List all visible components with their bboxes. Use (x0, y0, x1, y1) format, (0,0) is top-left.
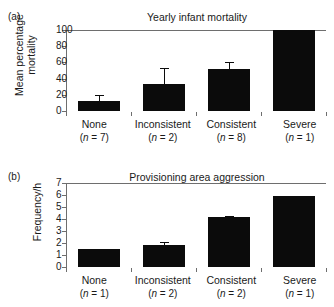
category-sample-size: (n = 7) (60, 131, 129, 144)
bar-severe (273, 30, 315, 111)
y-tick-label: 1 (56, 250, 58, 260)
x-tick-mark-end (326, 268, 327, 272)
x-tick-mark-end (326, 112, 327, 116)
x-tick-mark (66, 112, 67, 116)
panel-a-x-labels: None(n = 7)Inconsistent(n = 2)Consistent… (60, 118, 334, 144)
y-tick-label: 2 (56, 238, 58, 248)
y-tick-label: 60 (56, 57, 58, 67)
category-sample-size: (n = 1) (266, 287, 334, 300)
category-name: Inconsistent (129, 274, 198, 287)
x-label-inconsistent: Inconsistent(n = 2) (129, 118, 198, 144)
y-tick-mark (62, 195, 66, 196)
y-tick-label: 5 (56, 202, 58, 212)
y-tick-mark (62, 207, 66, 208)
x-label-severe: Severe(n = 1) (266, 274, 334, 300)
category-sample-size: (n = 2) (129, 131, 198, 144)
category-sample-size: (n = 8) (197, 131, 266, 144)
bar-consistent (208, 69, 250, 111)
y-tick-label: 0 (56, 106, 58, 116)
error-bar-inconsistent (164, 68, 165, 84)
bar-none (78, 249, 120, 267)
x-tick-mark (196, 268, 197, 272)
panel-a: (a) Yearly infant mortality Mean percent… (0, 0, 334, 158)
x-label-inconsistent: Inconsistent(n = 2) (129, 274, 198, 300)
panel-b-x-labels: None(n = 1)Inconsistent(n = 2)Consistent… (60, 274, 334, 300)
category-name: Consistent (197, 118, 266, 131)
category-sample-size: (n = 1) (60, 287, 129, 300)
x-label-severe: Severe(n = 1) (266, 118, 334, 144)
x-tick-mark (131, 268, 132, 272)
y-tick-label: 6 (56, 190, 58, 200)
panel-b-plot-area: 01234567 (66, 183, 326, 268)
y-tick-mark (62, 255, 66, 256)
bar-inconsistent (143, 245, 185, 267)
x-tick-mark (131, 112, 132, 116)
category-sample-size: (n = 2) (129, 287, 198, 300)
y-tick-label: 7 (56, 178, 58, 188)
panel-a-title: Yearly infant mortality (60, 12, 334, 23)
panel-b-x-axis-line (66, 183, 326, 184)
y-tick-label: 3 (56, 226, 58, 236)
y-tick-label: 0 (56, 262, 58, 272)
figure-two-panel-bar-chart: (a) Yearly infant mortality Mean percent… (0, 0, 334, 307)
panel-b-title: Provisioning area aggression (60, 172, 334, 183)
category-name: Severe (266, 118, 334, 131)
category-name: Severe (266, 274, 334, 287)
error-bar-cap-inconsistent (160, 242, 169, 243)
x-tick-mark (261, 268, 262, 272)
panel-a-y-axis-label: Mean percentage mortality (13, 7, 39, 103)
category-sample-size: (n = 1) (266, 131, 334, 144)
x-tick-mark (196, 112, 197, 116)
y-tick-label: 20 (56, 90, 58, 100)
error-bar-cap-none (95, 95, 104, 96)
y-tick-mark (62, 183, 66, 184)
error-bar-cap-consistent (225, 216, 234, 217)
y-tick-mark (62, 219, 66, 220)
y-tick-label: 100 (56, 25, 58, 35)
category-name: None (60, 118, 129, 131)
y-tick-label: 80 (56, 41, 58, 51)
bar-severe (273, 196, 315, 267)
error-bar-cap-inconsistent (160, 68, 169, 69)
x-label-none: None(n = 7) (60, 118, 129, 144)
y-tick-mark (62, 231, 66, 232)
panel-b-y-axis-label: Frequency/h (31, 164, 45, 260)
bar-inconsistent (143, 84, 185, 111)
x-label-consistent: Consistent(n = 8) (197, 118, 266, 144)
category-name: Inconsistent (129, 118, 198, 131)
x-label-consistent: Consistent(n = 2) (197, 274, 266, 300)
category-sample-size: (n = 2) (197, 287, 266, 300)
bar-none (78, 101, 120, 111)
category-name: Consistent (197, 274, 266, 287)
y-tick-label: 40 (56, 74, 58, 84)
x-tick-mark (66, 268, 67, 272)
panel-b-letter: (b) (8, 172, 20, 182)
panel-a-plot-area: 020406080100 (66, 30, 326, 112)
category-name: None (60, 274, 129, 287)
panel-b-y-axis-line (66, 183, 67, 268)
bar-consistent (208, 217, 250, 267)
y-tick-label: 4 (56, 214, 58, 224)
x-tick-mark (261, 112, 262, 116)
error-bar-cap-consistent (225, 62, 234, 63)
x-label-none: None(n = 1) (60, 274, 129, 300)
y-tick-mark (62, 243, 66, 244)
